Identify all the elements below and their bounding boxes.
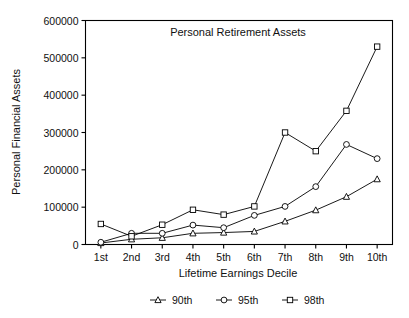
chart-legend: 90th95th98th [150,294,325,306]
square-marker [129,234,134,239]
circle-marker [221,225,227,231]
x-tick-label: 4th [186,251,201,263]
legend-label: 95th [238,294,259,306]
square-marker [221,212,226,217]
circle-marker [98,239,104,245]
legend-item-95th: 95th [216,294,259,306]
x-axis-title: Lifetime Earnings Decile [179,267,298,279]
chart-figure: 0100000200000300000400000500000600000 1s… [0,0,409,318]
square-marker [252,204,257,209]
y-axis-title: Personal Financial Assets [10,69,22,195]
triangle-marker [343,193,349,199]
circle-marker [313,184,319,190]
square-marker [190,207,195,212]
circle-marker [190,222,196,228]
chart-title: Personal Retirement Assets [170,26,306,38]
y-tick-label: 200000 [43,164,78,176]
circle-marker [251,212,257,218]
legend-label: 90th [172,294,193,306]
series-98th [98,44,380,239]
circle-marker [282,204,288,210]
square-marker [374,44,379,49]
y-tick-label: 0 [73,239,79,251]
y-tick-label: 600000 [43,15,78,27]
triangle-marker [374,176,380,182]
series-line [101,144,377,242]
chart-svg: 0100000200000300000400000500000600000 1s… [0,0,409,318]
legend-item-90th: 90th [150,294,193,306]
square-marker [282,130,287,135]
circle-marker [221,297,227,303]
x-axis: 1st2nd3rd4th5th6th7th8th9th10th [94,245,388,263]
triangle-marker [313,207,319,213]
x-tick-label: 10th [367,251,388,263]
circle-marker [344,142,350,148]
series-line [101,47,377,237]
square-marker [160,222,165,227]
square-marker [344,108,349,113]
y-tick-label: 500000 [43,52,78,64]
series-layer [98,44,381,246]
legend-item-98th: 98th [282,294,325,306]
x-tick-label: 9th [339,251,354,263]
legend-label: 98th [304,294,325,306]
x-tick-label: 3rd [155,251,170,263]
x-tick-label: 6th [247,251,262,263]
circle-marker [374,156,380,162]
square-marker [313,148,318,153]
y-tick-label: 300000 [43,127,78,139]
square-marker [98,221,103,226]
y-tick-label: 400000 [43,89,78,101]
y-tick-label: 100000 [43,201,78,213]
x-tick-label: 7th [278,251,293,263]
x-tick-label: 8th [308,251,323,263]
y-axis: 0100000200000300000400000500000600000 [43,15,85,251]
x-tick-label: 2nd [123,251,141,263]
series-95th [98,142,380,246]
square-marker [287,297,292,302]
x-tick-label: 5th [216,251,231,263]
x-tick-label: 1st [94,251,108,263]
circle-marker [159,230,165,236]
